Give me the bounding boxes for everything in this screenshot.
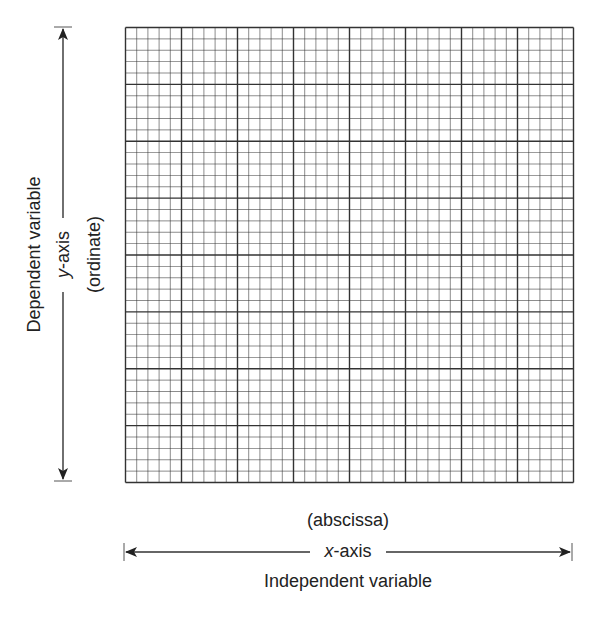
y-variable: y xyxy=(53,269,73,278)
y-axis-dependent-variable-label: Dependent variable xyxy=(24,170,45,340)
grid xyxy=(126,28,574,483)
x-axis-independent-variable-label: Independent variable xyxy=(198,571,498,592)
y-axis-ordinate-label: (ordinate) xyxy=(84,205,105,305)
y-axis-suffix: -axis xyxy=(53,231,73,269)
x-axis-abscissa-label: (abscissa) xyxy=(248,510,448,531)
x-axis-name-label: x-axis xyxy=(310,541,386,562)
x-axis-suffix: -axis xyxy=(333,541,371,561)
y-axis-name-label: y-axis xyxy=(53,220,74,290)
